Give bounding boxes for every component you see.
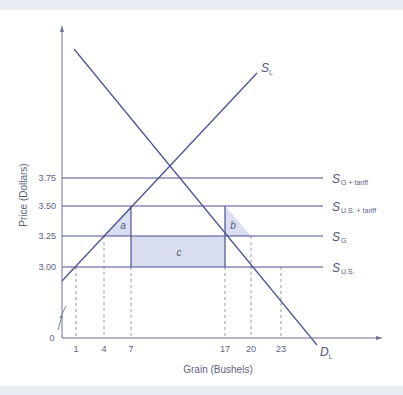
area-a-label: a — [120, 220, 126, 231]
origin-label: 0 — [49, 333, 54, 343]
demand-local-line — [74, 49, 317, 345]
label-supply-local: SL — [261, 61, 273, 76]
area-c-label: c — [177, 247, 182, 258]
x-axis-title: Grain (Bushels) — [183, 364, 252, 375]
y-axis-arrow-icon — [60, 25, 64, 32]
x-tick-7: 7 — [128, 344, 133, 354]
label-supply-g-tariff: SG + tariff — [332, 172, 368, 186]
area-b-label: b — [230, 220, 236, 231]
label-supply-g: SG — [332, 230, 346, 244]
y-tick-3-00: 3.00 — [38, 262, 56, 272]
label-supply-us-tariff: SU.S. + tariff — [332, 200, 376, 214]
area-b — [225, 206, 251, 236]
label-supply-us: SU.S. — [332, 261, 355, 275]
y-tick-3-50: 3.50 — [38, 201, 56, 211]
x-tick-4: 4 — [101, 344, 106, 354]
label-demand-local: DL — [320, 345, 333, 360]
y-tick-3-75: 3.75 — [38, 173, 56, 183]
x-tick-20: 20 — [246, 344, 256, 354]
y-tick-3-25: 3.25 — [38, 231, 56, 241]
x-tick-17: 17 — [220, 344, 230, 354]
axes — [58, 30, 378, 338]
tariff-diagram: 3.75 3.50 3.25 3.00 0 Price (Dollars) 1 … — [0, 0, 403, 395]
x-tick-23: 23 — [276, 344, 286, 354]
x-axis-arrow-icon — [376, 336, 383, 340]
y-axis-title: Price (Dollars) — [18, 163, 29, 226]
x-tick-1: 1 — [73, 344, 78, 354]
